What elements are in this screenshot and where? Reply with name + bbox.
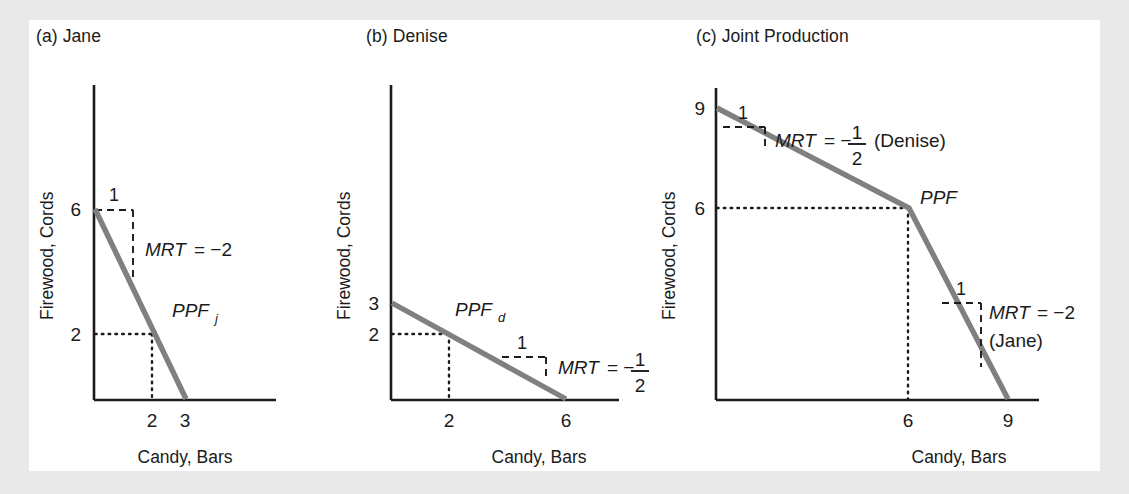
mrt-label-jane: MRT <box>989 302 1031 323</box>
x-axis-label: Candy, Bars <box>138 447 233 467</box>
x-tick-9: 9 <box>1003 410 1014 431</box>
mrt-denise-owner: (Denise) <box>874 130 946 151</box>
ppf-subscript: d <box>498 310 506 325</box>
panel-joint-production: (c) Joint Production Firewood, Cords Can… <box>689 20 1100 471</box>
x-axis-label: Candy, Bars <box>492 447 587 467</box>
x-tick-6: 6 <box>903 410 914 431</box>
ppf-line-joint <box>717 108 1008 399</box>
mrt-value: = − <box>607 357 634 378</box>
mrt-label: MRT <box>558 357 600 378</box>
panel-denise: (b) Denise Firewood, Cords Candy, Bars 3… <box>359 20 689 471</box>
y-tick-2: 2 <box>368 324 379 345</box>
panel-jane: (a) Jane Firewood, Cords Candy, Bars 6 2… <box>29 20 359 471</box>
y-axis-label: Firewood, Cords <box>37 191 57 320</box>
x-axis-label: Candy, Bars <box>912 447 1007 467</box>
x-tick-2: 2 <box>147 410 158 431</box>
chart-joint-production: Firewood, Cords Candy, Bars 9 6 6 9 1 MR… <box>689 20 1100 471</box>
ppf-label: PPF <box>455 299 493 320</box>
run-label-bottom: 1 <box>956 279 966 299</box>
mrt-denise-fraction-denominator: 2 <box>852 148 863 169</box>
y-axis-label: Firewood, Cords <box>334 191 354 320</box>
run-label: 1 <box>517 333 527 353</box>
y-tick-2: 2 <box>70 324 81 345</box>
mrt-fraction-denominator: 2 <box>635 375 646 396</box>
mrt-value-denise: = − <box>824 130 851 151</box>
run-label: 1 <box>109 185 119 205</box>
x-tick-6: 6 <box>561 410 572 431</box>
y-tick-3: 3 <box>368 293 379 314</box>
mrt-label: MRT <box>145 239 187 260</box>
ppf-subscript: j <box>213 311 219 326</box>
figure-inner-canvas: (a) Jane Firewood, Cords Candy, Bars 6 2… <box>29 20 1100 471</box>
mrt-fraction-numerator: 1 <box>635 349 646 370</box>
ppf-label: PPF <box>920 187 958 208</box>
y-tick-9: 9 <box>694 98 705 119</box>
mrt-value-jane: = −2 <box>1037 302 1075 323</box>
mrt-denise-fraction-numerator: 1 <box>852 122 863 143</box>
ppf-label: PPF <box>172 300 210 321</box>
mrt-jane-owner: (Jane) <box>989 330 1043 351</box>
chart-denise: Firewood, Cords Candy, Bars 3 2 2 6 1 PP… <box>359 20 689 471</box>
y-tick-6: 6 <box>70 199 81 220</box>
x-tick-2: 2 <box>444 410 455 431</box>
figure-container: (a) Jane Firewood, Cords Candy, Bars 6 2… <box>0 0 1129 494</box>
x-tick-3: 3 <box>180 410 191 431</box>
y-axis-label: Firewood, Cords <box>659 191 679 320</box>
mrt-label-denise: MRT <box>775 130 817 151</box>
run-label-top: 1 <box>738 103 748 123</box>
mrt-value: = −2 <box>194 239 232 260</box>
y-tick-6: 6 <box>694 198 705 219</box>
chart-jane: Firewood, Cords Candy, Bars 6 2 2 3 1 <box>29 20 359 471</box>
